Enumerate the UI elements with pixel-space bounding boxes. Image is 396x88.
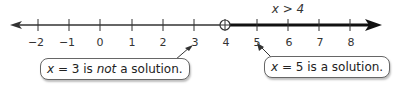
tick-label: 2 [160, 36, 167, 49]
tick-label: −2 [28, 36, 44, 49]
tick-label: 3 [192, 36, 199, 49]
tick-label: 7 [317, 36, 324, 49]
tick-label: 8 [348, 36, 355, 49]
inequality-label: x > 4 [271, 2, 304, 16]
tick-label: −1 [59, 36, 75, 49]
callout-not-solution: x = 3 is not a solution. [40, 58, 190, 80]
tick-label: 4 [223, 36, 230, 49]
callout-text: = 5 is a solution. [278, 60, 383, 74]
tick-label: 6 [286, 36, 293, 49]
callout-text: a solution. [116, 62, 182, 76]
callout-is-solution: x = 5 is a solution. [264, 56, 390, 78]
emphasis-not: not [97, 62, 117, 76]
callout-text: = 3 is [54, 62, 97, 76]
tick-label: 0 [97, 36, 104, 49]
tick-label: 1 [129, 36, 136, 49]
open-circle-icon [220, 19, 230, 31]
